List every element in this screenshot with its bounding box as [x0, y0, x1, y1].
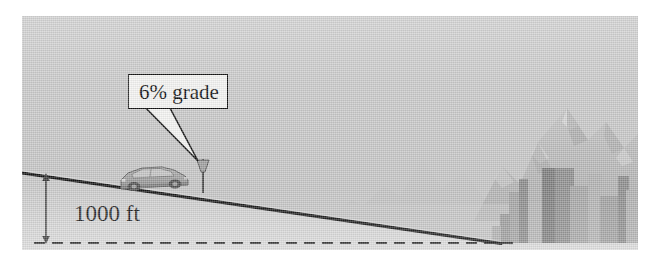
- building-9: [626, 190, 638, 243]
- elevation-label: 1000 ft: [74, 202, 140, 225]
- building-4-face: [542, 168, 555, 243]
- building-6: [588, 174, 602, 243]
- illustration-plate: 6% grade 1000 ft: [22, 16, 638, 250]
- grade-callout-box: 6% grade: [128, 74, 228, 109]
- grade-callout-label: 6% grade: [129, 75, 229, 110]
- building-10: [500, 214, 510, 243]
- building-2: [519, 179, 528, 243]
- building-7: [600, 196, 620, 243]
- figure-root: 6% grade 1000 ft: [0, 0, 654, 270]
